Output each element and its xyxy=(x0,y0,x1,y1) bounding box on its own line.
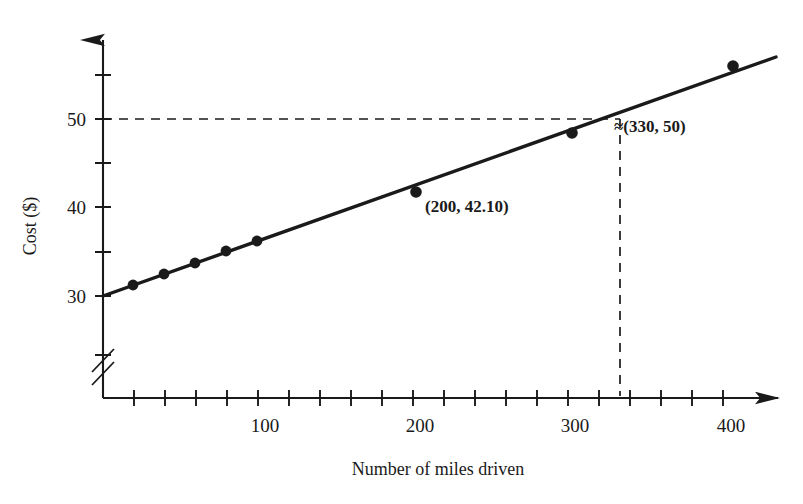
data-point[interactable] xyxy=(566,127,578,139)
chart-svg: 50 40 30 100 200 300 400 Cost ($) Number… xyxy=(0,0,803,504)
data-point[interactable] xyxy=(128,280,139,291)
y-tick-label-40: 40 xyxy=(67,197,86,218)
miles-axis xyxy=(103,390,778,406)
annotation-point-330: ≈(330, 50) xyxy=(614,117,686,136)
x-tick-label-400: 400 xyxy=(717,415,746,436)
x-axis-title: Number of miles driven xyxy=(352,459,524,479)
data-point[interactable] xyxy=(410,186,422,198)
y-tick-label-50: 50 xyxy=(67,109,86,130)
cost-axis xyxy=(92,40,114,398)
data-point[interactable] xyxy=(727,60,739,72)
y-tick-label-30: 30 xyxy=(67,286,86,307)
trend-line xyxy=(103,57,776,296)
data-point[interactable] xyxy=(190,258,201,269)
data-point[interactable] xyxy=(159,269,170,280)
data-point[interactable] xyxy=(221,246,232,257)
chart-container: 50 40 30 100 200 300 400 Cost ($) Number… xyxy=(0,0,803,504)
x-tick-label-200: 200 xyxy=(406,415,435,436)
x-tick-label-300: 300 xyxy=(561,415,590,436)
y-axis-title: Cost ($) xyxy=(20,197,41,256)
data-point[interactable] xyxy=(252,236,263,247)
annotation-point-200: (200, 42.10) xyxy=(425,197,509,216)
x-tick-label-100: 100 xyxy=(251,415,280,436)
